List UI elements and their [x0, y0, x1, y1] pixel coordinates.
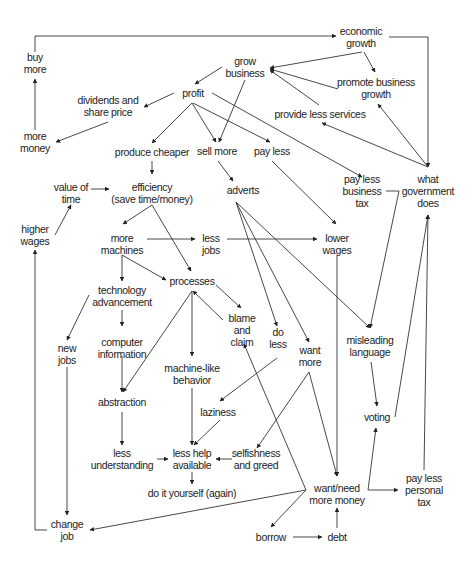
node-do-it-yourself: do it yourself (again) [148, 487, 237, 499]
edge-want-more-to-want-need-more-money [309, 372, 337, 476]
edge-profit-to-pay-less [193, 103, 270, 142]
edge-blame-and-claim-to-processes [193, 291, 223, 320]
edge-economic-growth-to-promote-business-growth [364, 52, 375, 72]
edge-pay-less-personal-tax-to-what-government-does [424, 215, 428, 470]
edge-adverts-to-do-less [236, 202, 277, 326]
edge-dividends-to-more-money [56, 122, 108, 142]
node-borrow: borrow [256, 531, 286, 543]
edge-adverts-to-misleading-language [236, 202, 370, 328]
node-want-more: want more [299, 344, 322, 368]
node-blame-and-claim: blame and claim [228, 312, 255, 348]
edge-laziness-to-less-help-available [194, 420, 220, 445]
node-debt: debt [327, 531, 346, 543]
node-less-understanding: less understanding [91, 447, 154, 471]
node-what-government-does: what government does [402, 173, 454, 209]
edge-more-machines-to-processes [122, 255, 166, 280]
node-selfishness-and-greed: selfishness and greed [232, 447, 281, 471]
node-profit: profit [182, 87, 204, 99]
node-more-machines: more machines [101, 232, 144, 256]
node-promote-business-growth: promote business growth [337, 76, 415, 100]
edge-technology-advancement-to-new-jobs [67, 295, 89, 340]
edge-want-need-more-money-to-voting [368, 428, 376, 490]
node-sell-more: sell more [197, 145, 237, 157]
edge-efficiency-to-more-machines [123, 205, 152, 224]
edge-grow-business-to-sell-more [219, 80, 245, 142]
edge-sell-more-to-adverts [218, 161, 233, 181]
edge-pay-less-to-lower-wages [272, 161, 336, 224]
node-provide-less-services: provide less services [274, 108, 365, 120]
node-pay-less-business-tax: pay less business tax [342, 173, 381, 209]
edge-do-less-to-laziness [220, 358, 277, 401]
edge-buy-more-to-economic-growth [35, 36, 336, 52]
node-do-less: do less [269, 326, 286, 350]
node-want-need-more-money: want/need more money [309, 482, 364, 506]
edge-grow-business-to-profit [195, 67, 222, 84]
edge-profit-to-pay-less-business-tax [212, 93, 362, 177]
node-machine-like-behavior: machine-like behavior [164, 362, 219, 386]
edge-provide-less-services-to-grow-business [270, 70, 319, 105]
node-efficiency: efficiency (save time/money) [111, 181, 192, 205]
node-produce-cheaper: produce cheaper [115, 146, 189, 158]
node-pay-less: pay less [254, 145, 290, 157]
edge-efficiency-to-processes [152, 205, 191, 271]
edge-what-government-does-to-promote-business-growth [378, 104, 428, 167]
node-change-job: change job [51, 518, 84, 542]
node-laziness: laziness [200, 406, 236, 418]
node-grow-business: grow business [225, 55, 264, 79]
edge-change-job-to-higher-wages [35, 250, 47, 530]
node-pay-less-personal-tax: pay less personal tax [405, 472, 443, 508]
edge-promote-business-growth-to-grow-business [270, 69, 338, 89]
node-adverts: adverts [227, 184, 259, 196]
node-lower-wages: lower wages [323, 232, 352, 256]
node-abstraction: abstraction [98, 396, 146, 408]
node-new-jobs: new jobs [58, 342, 76, 366]
node-less-help-available: less help available [173, 447, 212, 471]
node-less-jobs: less jobs [202, 232, 220, 256]
node-buy-more: buy more [24, 51, 47, 75]
node-misleading-language: misleading language [346, 334, 393, 358]
edge-economic-growth-to-grow-business [270, 52, 362, 68]
edge-profit-to-produce-cheaper [152, 103, 192, 143]
edge-processes-to-blame-and-claim [216, 285, 241, 308]
causal-diagram: economic growthbuy moregrow businessprom… [0, 0, 470, 565]
edge-profit-to-dividends [144, 93, 174, 107]
edge-what-government-does-to-provide-less-services [322, 123, 428, 167]
node-economic-growth: economic growth [340, 25, 383, 49]
edge-pay-less-business-tax-to-misleading-language [370, 191, 399, 328]
node-voting: voting [364, 411, 390, 423]
node-computer-information: computer information [98, 336, 147, 360]
node-processes: processes [169, 275, 214, 287]
node-more-money: more money [20, 130, 50, 154]
edge-higher-wages-to-value-of-time [55, 205, 71, 235]
node-value-of-time: value of time [54, 181, 88, 205]
node-dividends: dividends and share price [78, 94, 139, 118]
edge-voting-to-what-government-does [395, 215, 428, 417]
edge-misleading-language-to-voting [371, 362, 377, 406]
edge-economic-growth-to-what-government-does [389, 37, 428, 167]
node-technology-advancement: technology advancement [92, 284, 152, 308]
node-higher-wages: higher wages [21, 223, 50, 247]
